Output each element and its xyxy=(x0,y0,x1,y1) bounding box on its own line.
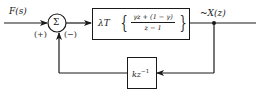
feedback-label: kz−1 xyxy=(132,69,149,79)
left-brace: { xyxy=(120,13,127,32)
forward-gain: λT xyxy=(98,19,110,28)
right-brace: } xyxy=(179,13,186,32)
fraction-denominator: z − 1 xyxy=(144,23,161,32)
plus-sign: (+) xyxy=(34,31,47,39)
feedback-label-base: kz xyxy=(132,70,141,79)
fraction-numerator: γz + (1 − γ) xyxy=(131,13,175,23)
minus-sign: (−) xyxy=(64,31,77,39)
transfer-fraction: γz + (1 − γ) z − 1 xyxy=(128,13,178,32)
sigma-symbol: Σ xyxy=(53,18,59,27)
input-label: F(s) xyxy=(9,7,27,16)
output-label: ~X(z) xyxy=(200,9,226,18)
feedback-label-exponent: −1 xyxy=(141,68,149,74)
